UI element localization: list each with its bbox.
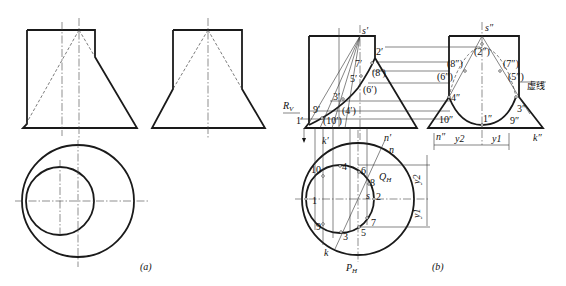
label-1-top: 1 [312,195,317,206]
label-n-dbl: n″ [436,131,446,142]
arrow-head-icon [302,138,306,143]
label-3-top: 3 [343,231,348,242]
label-2-prime: 2′ [376,46,383,57]
label-9-dbl: 9″ [510,115,519,126]
panel-b-side-view: s″ (2″) (8″) (7″) (6″) (5″) 虚线 4″ 3″ 10″… [428,22,546,150]
cone-hidden-right [79,30,95,57]
label-5-top: 5 [361,227,366,238]
label-s-dbl: s″ [485,22,494,33]
label-10-top: 10 [311,164,321,175]
intersection-point [321,117,324,120]
panel-a: (a) [15,18,265,273]
label-y1-side: y1 [491,133,501,144]
intersection-point [340,231,343,234]
intersection-point [499,70,502,73]
label-k-dbl: k″ [533,132,542,143]
label-5-prime: 5′ [350,73,357,84]
intersection-point [342,98,345,101]
label-4-prime: (4′) [342,105,356,117]
label-qh: QH [379,171,392,184]
intersection-point [322,175,325,178]
label-y1-top: y1 [411,209,422,219]
label-7-top: 7 [371,217,376,228]
label-2-top: 2 [376,191,381,202]
intersection-point [305,198,308,201]
label-2-dbl: (2″) [474,46,490,58]
intersection-point [360,75,363,78]
label-n-prime: n′ [384,132,392,143]
label-3-dbl: 3″ [517,103,526,114]
label-8-dbl: (8″) [447,58,463,70]
label-6-dbl: (6″) [437,71,453,83]
label-9-prime: 9′ [313,104,320,115]
intersection-point [481,124,484,127]
label-y2-top: y2 [411,175,422,185]
intersection-point [358,226,361,229]
label-k-top: k [324,247,329,258]
label-10-prime: (10′) [323,115,342,127]
label-y2-side: y2 [454,133,464,144]
intersection-point [371,62,374,65]
label-6-top: 6 [361,165,366,176]
panel-a-side-view [152,18,265,138]
label-n-top: n [389,144,394,155]
intersection-point [464,70,467,73]
label-1-dbl: 1″ [483,113,492,124]
label-10-dbl: 10″ [439,114,453,125]
panel-b-top-view: 10 4 6 8 2 1 9 3 5 7 s n k QH PH y2 y1 [295,128,430,275]
side-hidden-left [173,30,208,89]
intersection-point [322,223,325,226]
intersection-point [339,165,342,168]
panel-a-top-view [15,140,150,267]
label-4-dbl: 4″ [451,92,460,103]
label-7-prime: 7′ [355,58,362,69]
label-s-top: s [366,190,370,201]
intersection-point [515,96,518,99]
label-rv: RV [282,100,294,113]
label-9-top: 9 [316,221,321,232]
side-outline [152,30,265,128]
caption-a: (a) [140,261,152,273]
intersection-point [481,43,484,46]
cone-hidden-left [26,30,79,124]
label-6-prime: (6′) [363,84,377,96]
side-hidden-right [208,30,242,89]
label-4-top: 4 [342,161,347,172]
label-s-prime: s′ [362,25,369,36]
front-outline [23,30,137,128]
label-8-top: 8 [370,177,375,188]
intersection-point [448,96,451,99]
intersection-point [368,183,371,186]
intersection-point [358,171,361,174]
intersection-point [366,217,369,220]
technical-drawing: (a) s′ 2′ 7′ (8′) 5′ [0,0,566,286]
intersection-point [373,198,376,201]
label-5-dbl: (5″) [508,71,524,83]
label-hidden-line-note: 虚线 [527,80,545,91]
caption-b: (b) [432,261,444,273]
label-ph: PH [345,262,358,275]
label-8-prime: (8′) [372,67,386,79]
panel-b-front-view: s′ 2′ 7′ (8′) 5′ (6′) 3′ (4′) 9′ (10′) 1… [282,25,417,146]
label-1-prime: 1′ [296,115,303,126]
label-3-prime: 3′ [333,91,340,102]
panel-b: s′ 2′ 7′ (8′) 5′ (6′) 3′ (4′) 9′ (10′) 1… [282,22,546,275]
label-7-dbl: (7″) [503,58,519,70]
panel-a-front-view [23,18,137,140]
